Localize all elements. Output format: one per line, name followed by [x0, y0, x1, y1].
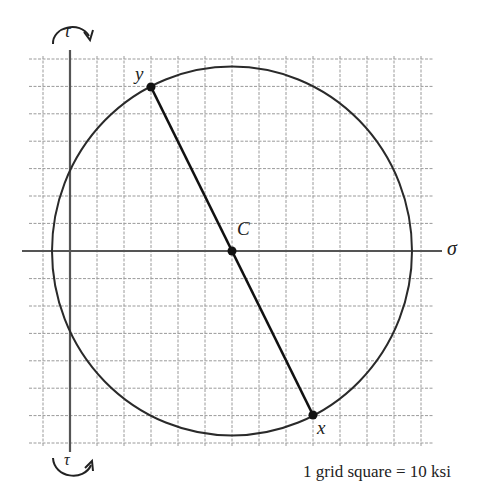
tau-label-top: τ — [64, 22, 70, 40]
scale-caption: 1 grid square = 10 ksi — [303, 462, 451, 482]
counterclockwise-arrow-icon — [53, 458, 93, 476]
point-center — [228, 247, 237, 256]
sigma-label: σ — [447, 238, 457, 258]
x-point-label: x — [317, 418, 325, 437]
tau-label-bottom: τ — [64, 452, 70, 468]
point-y — [147, 83, 156, 92]
y-point-label: y — [135, 64, 143, 83]
clockwise-arrow-icon — [53, 27, 93, 44]
center-label: C — [237, 219, 250, 238]
mohrs-circle-diagram — [0, 0, 497, 489]
